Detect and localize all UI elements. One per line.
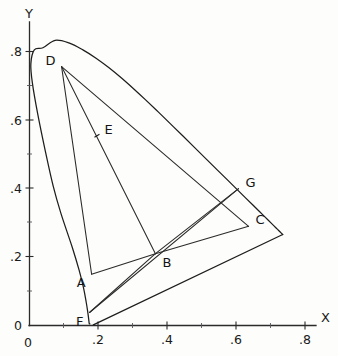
- point-label-f: F: [76, 314, 83, 329]
- point-label-b: B: [162, 255, 171, 270]
- point-label-group: ABCDEFG: [46, 53, 265, 329]
- gamut-segment-a-b: [92, 254, 156, 275]
- x-tick-label-06: .6: [230, 332, 242, 347]
- point-label-d: D: [46, 53, 56, 68]
- x-tick-label-08: .8: [299, 332, 311, 347]
- chromaticity-plot: Y X .8 .6 .4 .2 0 0 .2 .4 .6 .8 ABCDEFG: [0, 0, 338, 356]
- point-label-g: G: [246, 175, 256, 190]
- gamut-segment-f-g: [90, 189, 239, 313]
- gamut-segment-d-a: [62, 67, 92, 275]
- gamut-segment-d-b: [62, 67, 156, 254]
- chromaticity-figure: Y X .8 .6 .4 .2 0 0 .2 .4 .6 .8 ABCDEFG: [0, 0, 338, 356]
- point-label-a: A: [77, 275, 86, 290]
- y-tick-label-0: 0: [14, 318, 22, 333]
- purple-line: [93, 235, 282, 325]
- y-axis-label: Y: [24, 6, 33, 21]
- gamut-segment-group: [62, 67, 249, 313]
- y-tick-label-02: .2: [10, 249, 22, 264]
- x-tick-label-0: 0: [24, 335, 32, 350]
- x-tick-label-04: .4: [161, 332, 173, 347]
- axis-group: [29, 22, 316, 326]
- y-tick-label-08: .8: [10, 44, 22, 59]
- gamut-segment-b-c: [155, 226, 248, 253]
- point-label-e: E: [104, 122, 112, 137]
- x-axis-label: X: [321, 310, 330, 325]
- x-tick-label-02: .2: [92, 332, 104, 347]
- y-tick-label-04: .4: [10, 181, 22, 196]
- point-label-c: C: [256, 212, 265, 227]
- y-tick-label-06: .6: [10, 113, 22, 128]
